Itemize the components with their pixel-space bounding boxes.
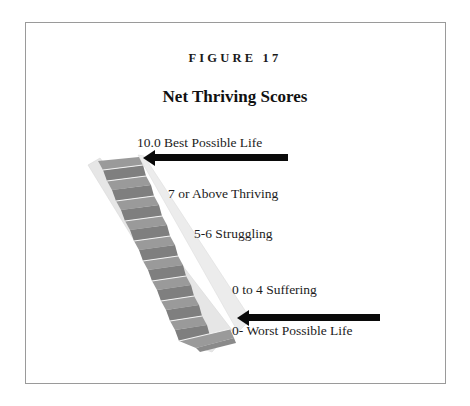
label-suffering: 0 to 4 Suffering bbox=[232, 282, 317, 298]
label-thriving: 7 or Above Thriving bbox=[168, 186, 278, 202]
label-best-possible-life: 10.0 Best Possible Life bbox=[137, 135, 262, 151]
label-struggling: 5-6 Struggling bbox=[194, 226, 272, 242]
label-worst-possible-life: 0- Worst Possible Life bbox=[232, 323, 353, 339]
staircase-illustration bbox=[0, 0, 470, 406]
